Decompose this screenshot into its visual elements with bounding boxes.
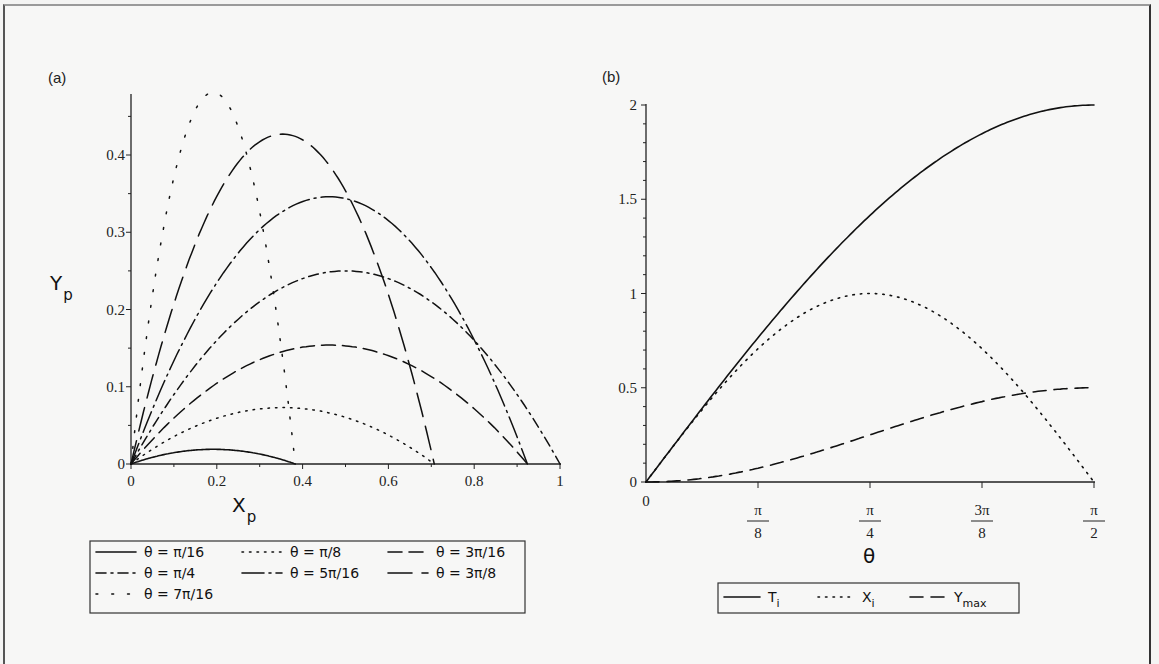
x-axis-title: Xp bbox=[232, 493, 256, 526]
legend-b: TiXiYmax bbox=[718, 583, 1019, 613]
trajectory-curve bbox=[131, 92, 295, 464]
x-ticks: 00.20.40.60.81 bbox=[127, 464, 564, 489]
y-tick-label: 2 bbox=[630, 97, 638, 113]
legend-item: θ = π/4 bbox=[144, 565, 195, 581]
legend-item: θ = 5π/16 bbox=[290, 565, 359, 581]
x-tick-label: 1 bbox=[556, 473, 564, 489]
x-tick-label: 0.8 bbox=[465, 473, 484, 489]
y-tick-label: 1.5 bbox=[618, 191, 637, 207]
x-tick-label: 0.4 bbox=[293, 473, 312, 489]
trajectory-curve bbox=[131, 449, 295, 464]
trajectory-curves bbox=[131, 92, 560, 464]
y-tick-label: 0.5 bbox=[618, 380, 637, 396]
x-tick-label: 0.2 bbox=[207, 473, 226, 489]
panel-a-label: (a) bbox=[48, 69, 66, 86]
x-tick-denominator: 8 bbox=[754, 525, 762, 541]
legend-item: θ = 3π/16 bbox=[436, 544, 505, 560]
y-tick-label: 1 bbox=[630, 286, 638, 302]
y-ticks: 00.10.20.30.4 bbox=[106, 116, 131, 472]
legend-item: θ = 7π/16 bbox=[144, 586, 213, 602]
trajectory-curve bbox=[131, 345, 527, 464]
x-tick-denominator: 2 bbox=[1090, 525, 1098, 541]
y-axis-title: Yp bbox=[49, 271, 73, 304]
panel-b: (b) 00.511.52 0π8π43π8π2 θ TiXiYmax bbox=[602, 68, 1105, 613]
x-tick-denominator: 4 bbox=[866, 525, 874, 541]
y-tick-label: 0 bbox=[630, 474, 638, 490]
y-tick-label: 0.1 bbox=[106, 379, 125, 395]
x-tick-numerator: 3π bbox=[974, 502, 990, 518]
legend-item: θ = 3π/8 bbox=[436, 565, 496, 581]
y-tick-label: 0 bbox=[118, 456, 126, 472]
panel-a: (a) 00.10.20.30.4 00.20.40.60.81 Yp Xp θ… bbox=[48, 69, 564, 613]
x-ticks: 0π8π43π8π2 bbox=[642, 482, 1105, 541]
trajectory-curve bbox=[131, 271, 560, 464]
legend-item: θ = π/8 bbox=[290, 544, 341, 560]
legend-item: θ = π/16 bbox=[144, 544, 204, 560]
x-tick-denominator: 8 bbox=[978, 525, 986, 541]
trajectory-curve bbox=[131, 134, 434, 464]
x-tick-label: 0.6 bbox=[379, 473, 398, 489]
y-tick-label: 0.2 bbox=[106, 302, 125, 318]
function-curves bbox=[646, 105, 1094, 482]
x-tick-numerator: π bbox=[754, 502, 762, 518]
function-curve bbox=[646, 388, 1094, 482]
x-tick-label: 0 bbox=[642, 493, 650, 509]
trajectory-curve bbox=[131, 197, 527, 464]
legend-a: θ = π/16θ = π/8θ = 3π/16θ = π/4θ = 5π/16… bbox=[90, 541, 525, 613]
y-ticks: 00.511.52 bbox=[618, 97, 646, 490]
panel-b-label: (b) bbox=[602, 68, 620, 85]
x-tick-label: 0 bbox=[127, 473, 135, 489]
function-curve bbox=[646, 294, 1094, 483]
x-tick-numerator: π bbox=[866, 502, 874, 518]
y-tick-label: 0.3 bbox=[106, 224, 125, 240]
x-axis-title: θ bbox=[863, 544, 875, 568]
y-tick-label: 0.4 bbox=[106, 147, 125, 163]
x-tick-numerator: π bbox=[1090, 502, 1098, 518]
